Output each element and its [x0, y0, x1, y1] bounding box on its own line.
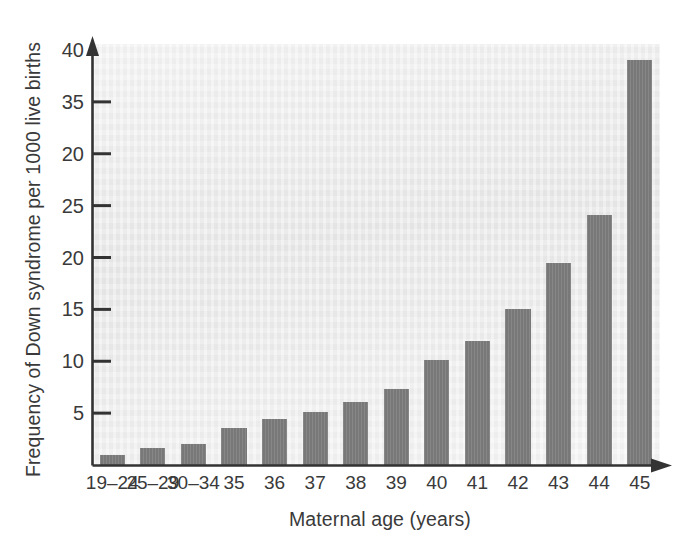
y-tick-label: 25 — [38, 194, 84, 217]
bar — [546, 263, 571, 465]
bar — [384, 389, 409, 465]
x-tick-label: 38 — [345, 472, 366, 494]
x-tick-label: 45 — [629, 472, 650, 494]
y-axis-tick-labels: 510152025203540 — [28, 0, 84, 552]
y-tick-label: 20 — [38, 142, 84, 165]
bar — [262, 419, 287, 465]
bar — [303, 412, 328, 465]
y-tick-label: 5 — [38, 402, 84, 425]
x-tick-label: 39 — [386, 472, 407, 494]
x-tick-label: 40 — [426, 472, 447, 494]
x-tick-label: 42 — [507, 472, 528, 494]
x-tick-label: 35 — [223, 472, 244, 494]
y-tick-label: 20 — [38, 246, 84, 269]
x-tick-label: 41 — [467, 472, 488, 494]
y-tick-label: 35 — [38, 90, 84, 113]
x-tick-label: 43 — [548, 472, 569, 494]
bar — [100, 455, 125, 465]
bar-series — [92, 44, 660, 465]
x-tick-label: 44 — [589, 472, 610, 494]
x-tick-label: 30–34 — [167, 472, 220, 494]
y-tick-label: 15 — [38, 298, 84, 321]
bar — [465, 341, 490, 466]
bar — [343, 402, 368, 465]
figure-bar-chart: Frequency of Down syndrome per 1000 live… — [0, 0, 680, 552]
x-tick-label: 37 — [305, 472, 326, 494]
bar — [221, 428, 246, 465]
x-axis-title: Maternal age (years) — [90, 508, 670, 531]
y-tick-label: 10 — [38, 350, 84, 373]
bar — [627, 60, 652, 465]
bar — [424, 360, 449, 465]
bar — [505, 309, 530, 465]
bar — [181, 444, 206, 465]
plot-area — [92, 44, 660, 465]
y-tick-label: 40 — [38, 39, 84, 62]
x-tick-label: 36 — [264, 472, 285, 494]
bar — [587, 215, 612, 465]
bar — [140, 448, 165, 465]
